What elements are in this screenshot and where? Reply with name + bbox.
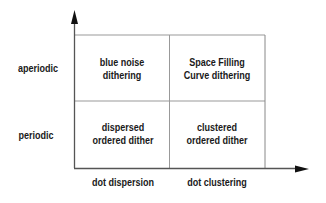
cell-line-2: ordered dither [180, 134, 254, 147]
x-label-dot-clustering: dot clustering [180, 176, 254, 189]
x-axis-arrow-icon [295, 166, 309, 173]
cell-line-1: blue noise [91, 56, 153, 69]
cell-line-2: Curve dithering [180, 69, 254, 82]
x-label-dot-dispersion: dot dispersion [86, 176, 160, 189]
cell-clustered-ordered-dither: clustered ordered dither [180, 121, 254, 147]
y-axis-arrow-icon [71, 10, 78, 24]
cell-line-2: dithering [91, 69, 153, 82]
cell-space-filling-curve-dithering: Space Filling Curve dithering [180, 56, 254, 82]
cell-line-1: dispersed [88, 121, 159, 134]
quadrant-diagram [0, 0, 326, 203]
y-label-periodic: periodic [11, 129, 60, 142]
cell-line-1: Space Filling [180, 56, 254, 69]
cell-line-2: ordered dither [88, 134, 159, 147]
cell-dispersed-ordered-dither: dispersed ordered dither [88, 121, 159, 147]
cell-blue-noise-dithering: blue noise dithering [91, 56, 153, 82]
cell-line-1: clustered [180, 121, 254, 134]
y-label-aperiodic: aperiodic [13, 62, 62, 75]
